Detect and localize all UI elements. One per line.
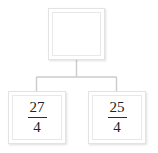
fraction-left: 27 4: [28, 100, 47, 135]
fraction-left-bar-icon: [28, 117, 47, 118]
child-node-box-left[interactable]: 27 4: [8, 91, 66, 144]
parent-node-box[interactable]: [48, 8, 105, 60]
fraction-left-numerator: 27: [28, 100, 47, 116]
factor-tree-diagram: 27 4 25 4: [0, 0, 158, 153]
child-node-box-right[interactable]: 25 4: [88, 91, 146, 144]
parent-node-inner: [52, 12, 101, 56]
parent-node-value: [53, 13, 100, 55]
fraction-left-denominator: 4: [31, 119, 43, 135]
child-node-inner-left: 27 4: [12, 95, 62, 140]
fraction-right: 25 4: [108, 100, 127, 135]
fraction-right-denominator: 4: [111, 119, 123, 135]
fraction-right-numerator: 25: [108, 100, 127, 116]
fraction-right-bar-icon: [108, 117, 127, 118]
child-node-inner-right: 25 4: [92, 95, 142, 140]
